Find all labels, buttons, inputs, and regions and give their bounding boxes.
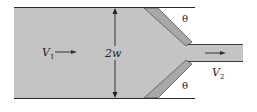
width-label: 2w — [104, 47, 122, 60]
theta-bottom-label: θ — [182, 80, 188, 91]
v2-subscript: 2 — [220, 73, 224, 81]
v1-subscript: 1 — [50, 53, 54, 61]
theta-top-label: θ — [182, 13, 188, 24]
nozzle-diagram: 2w V 1 V 2 θ θ — [0, 0, 257, 112]
